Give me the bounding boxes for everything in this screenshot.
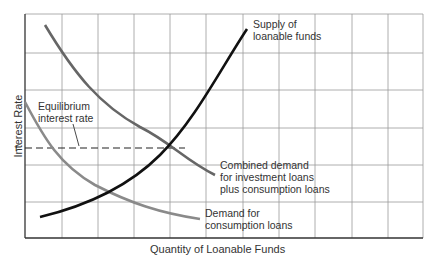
supply-label: Supply of loanable funds — [253, 18, 321, 42]
equilibrium-label: Equilibrium interest rate — [38, 100, 93, 124]
grid — [25, 14, 423, 238]
axes — [25, 14, 423, 238]
combined-demand-label: Combined demand for investment loans plu… — [220, 159, 330, 195]
equilibrium-pointer — [73, 124, 79, 146]
consumption-demand-label: Demand for consumption loans — [205, 207, 293, 231]
r-tick-label: r — [15, 141, 19, 153]
x-axis-label: Quantity of Loanable Funds — [150, 243, 285, 255]
y-axis-label: Interest Rate — [12, 86, 24, 166]
